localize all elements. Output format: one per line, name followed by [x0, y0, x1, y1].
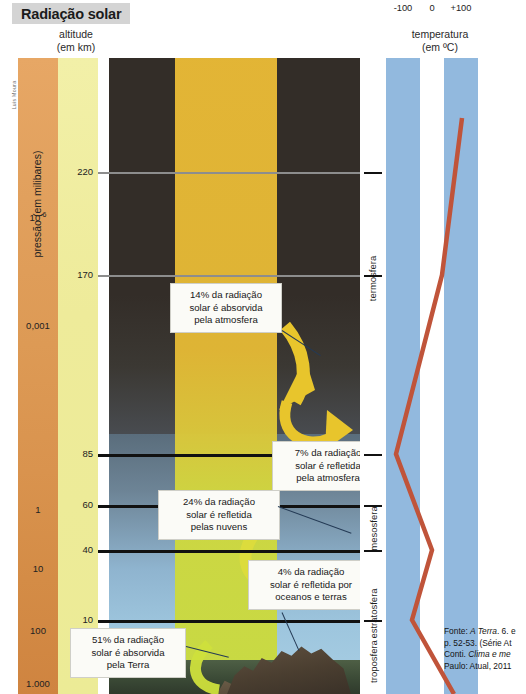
- page-title: Radiação solar: [21, 6, 121, 22]
- rule-10km: [109, 620, 360, 623]
- tick-220km: [98, 172, 110, 174]
- layer-termosfera: termosfera: [360, 178, 386, 378]
- source-author: Conti.: [444, 649, 468, 659]
- altitude-value-170: 170: [58, 269, 98, 280]
- pressure-axis-label: pressão (em milibares): [31, 129, 43, 279]
- source-line-2: p. 52-53. (Série At: [444, 638, 526, 650]
- altitude-value-60: 60: [58, 499, 98, 510]
- layer-label: mesosfera: [368, 506, 379, 550]
- callout-reflected-oceans-land: 4% da radiação solar é refletida por oce…: [248, 560, 374, 610]
- pressure-value-0: 10-6: [18, 211, 58, 223]
- altitude-value-10: 10: [58, 614, 98, 625]
- callout-reflected-clouds: 24% da radiação solar é refletida pelas …: [158, 490, 280, 540]
- pressure-value-2: 1: [18, 504, 58, 515]
- source-line-1: Fonte: A Terra. 6. e: [444, 626, 526, 638]
- source-line-4: Paulo: Atual, 2011: [444, 661, 526, 673]
- altitude-header-line1: altitude: [44, 28, 108, 41]
- callout-line3: oceanos e terras: [256, 591, 366, 604]
- callout-line1: 51% da radiação: [78, 634, 178, 647]
- tick-10km: [98, 620, 110, 623]
- temperature-curve-line: [396, 118, 462, 694]
- layer-tick-85km: [364, 454, 382, 456]
- temp-tick-plus100: +100: [444, 0, 478, 17]
- layer-tick-60km: [364, 505, 382, 507]
- callout-line1: 4% da radiação: [256, 566, 366, 579]
- tick-40km: [98, 550, 110, 553]
- callout-line2: solar é absorvida: [78, 647, 178, 660]
- callout-line3: pelas nuvens: [166, 521, 272, 534]
- source-work-title-2: Clima e me: [468, 649, 510, 659]
- temperature-curve: [386, 58, 494, 694]
- altitude-value-40: 40: [58, 544, 98, 555]
- pressure-value-1: 0,001: [18, 320, 58, 331]
- rule-40km: [109, 550, 360, 553]
- callout-absorbed-earth: 51% da radiação solar é absorvida pela T…: [70, 628, 186, 678]
- tick-60km: [98, 505, 110, 508]
- layer-tick-170km: [364, 275, 382, 277]
- callout-line1: 24% da radiação: [166, 496, 272, 509]
- temperature-profile-panel: [386, 58, 494, 694]
- layer-tick-220km: [364, 172, 382, 174]
- source-edition: . 6. e: [497, 626, 516, 636]
- tick-170km: [98, 275, 110, 277]
- callout-absorbed-atmosphere: 14% da radiação solar é absorvida pela a…: [170, 283, 282, 333]
- rule-170km: [109, 275, 360, 277]
- altitude-value-85: 85: [58, 448, 98, 459]
- page-title-bar: Radiação solar: [12, 3, 130, 24]
- pressure-value-3: 10: [18, 563, 58, 574]
- pressure-axis-band: pressão (em milibares) 10-6 0,001 1 10 1…: [18, 58, 58, 694]
- source-citation: Fonte: A Terra. 6. e p. 52-53. (Série At…: [444, 626, 526, 672]
- tick-85km: [98, 454, 110, 457]
- callout-line2: solar é absorvida: [178, 302, 274, 315]
- temp-tick-zero: 0: [420, 0, 444, 17]
- atmosphere-layer-labels: termosfera mesosfera estratosfera tropos…: [360, 58, 386, 694]
- source-line-3: Conti. Clima e me: [444, 649, 526, 661]
- temp-tick-minus100: -100: [386, 0, 420, 17]
- source-work-title: A Terra: [470, 626, 497, 636]
- callout-line1: 14% da radiação: [178, 289, 274, 302]
- altitude-axis-band: 220 170 85 60 40 10: [58, 58, 98, 694]
- temperature-header-line2: (em ºC): [382, 41, 498, 54]
- reflection-arrow-curve: [285, 402, 331, 442]
- layer-troposfera: troposfera: [360, 628, 386, 694]
- callout-line3: pela atmosfera: [178, 314, 274, 327]
- pressure-value-4: 100: [18, 625, 58, 636]
- layer-tick-10km: [364, 620, 382, 622]
- temperature-header-line1: temperatura: [382, 28, 498, 41]
- altitude-header-line2: (em km): [44, 41, 108, 54]
- source-fonte-label: Fonte:: [444, 626, 470, 636]
- illustrator-credit: Luis Moura: [11, 65, 17, 125]
- pressure-value-5: 1.000: [18, 678, 58, 689]
- callout-line2: solar é refletida por: [256, 579, 366, 592]
- callout-line3: pela Terra: [78, 659, 178, 672]
- altitude-value-220: 220: [58, 166, 98, 177]
- rule-220km: [109, 172, 360, 174]
- callout-line2: solar é refletida: [166, 509, 272, 522]
- layer-label: termosfera: [368, 255, 379, 300]
- layer-label: troposfera: [368, 640, 379, 683]
- layer-tick-40km: [364, 550, 382, 552]
- temperature-axis-header: temperatura (em ºC): [382, 28, 498, 54]
- altitude-axis-header: altitude (em km): [44, 28, 108, 54]
